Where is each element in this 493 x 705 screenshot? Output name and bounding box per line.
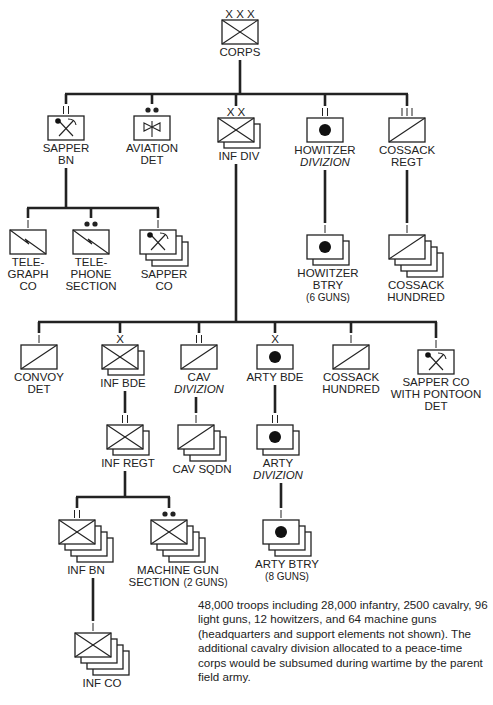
- unit-label: DIVIZION: [174, 383, 225, 395]
- artillery-icon: [275, 526, 287, 538]
- unit-inf-regt: INF REGT: [101, 415, 155, 469]
- unit-label: GRAPH: [8, 268, 49, 280]
- artillery-icon: [319, 241, 331, 253]
- unit-label: BTRY: [313, 279, 344, 291]
- echelon-x: X X: [227, 106, 246, 118]
- unit-label: DET: [141, 154, 164, 166]
- unit-label: INF BDE: [100, 377, 146, 389]
- unit-inf-div: X XINF DIV: [218, 106, 260, 162]
- echelon-dot: [84, 221, 89, 226]
- echelon-x: X: [271, 333, 279, 345]
- unit-arty-divizion: ARTYDIVIZION: [253, 415, 304, 481]
- artillery-icon: [269, 431, 281, 443]
- unit-label: CAV: [188, 371, 211, 383]
- unit-cossack-regt: COSSACKREGT: [379, 108, 436, 168]
- echelon-dot: [145, 107, 150, 112]
- echelon-dot: [170, 511, 175, 516]
- unit-label: SAPPER: [141, 268, 188, 280]
- unit-howitzer-divizion: HOWITZERDIVIZION: [294, 108, 355, 168]
- unit-machine-gun-section: MACHINE GUNSECTION(2 GUNS): [128, 511, 227, 588]
- unit-cossack-hundred-2: COSSACKHUNDRED: [322, 335, 380, 395]
- unit-label: (8 GUNS): [265, 571, 309, 582]
- unit-telephone-section: TELE-PHONESECTION: [65, 221, 116, 292]
- unit-label: COSSACK: [388, 279, 445, 291]
- unit-label: AVIATION: [126, 142, 178, 154]
- unit-label: INF REGT: [101, 457, 155, 469]
- unit-label: CO: [155, 280, 172, 292]
- unit-label: DET: [425, 400, 448, 412]
- unit-sapper-bn: SAPPERBN: [43, 106, 90, 166]
- unit-label: INF CO: [83, 677, 122, 689]
- unit-label: REGT: [391, 156, 423, 168]
- connector-corps: [65, 60, 408, 106]
- echelon-x: X: [116, 333, 124, 345]
- unit-cossack-hundred-1: COSSACKHUNDRED: [387, 225, 445, 303]
- unit-label: WITH PONTOON: [391, 388, 482, 400]
- unit-label: CORPS: [220, 46, 261, 58]
- summary-note: 48,000 troops including 28,000 infantry,…: [198, 598, 493, 684]
- connector-inf-regt: [76, 471, 170, 508]
- unit-label: TELE-: [12, 256, 45, 268]
- unit-label: CAV SQDN: [172, 463, 231, 475]
- unit-label: HUNDRED: [387, 291, 445, 303]
- unit-label: INF BN: [67, 564, 105, 576]
- connector-sapper-bn: [27, 168, 159, 218]
- unit-label: HUNDRED: [322, 383, 380, 395]
- echelon-x: X X X: [225, 8, 255, 20]
- unit-label: INF DIV: [219, 150, 260, 162]
- unit-label-suffix: (2 GUNS): [184, 577, 228, 588]
- unit-label: ARTY BDE: [246, 371, 303, 383]
- unit-label: SAPPER CO: [402, 376, 469, 388]
- unit-cav-divizion: CAVDIVIZION: [174, 335, 225, 395]
- unit-label: CO: [19, 280, 36, 292]
- unit-nodes: X X XCORPSSAPPERBNAVIATIONDETX XINF DIVH…: [8, 8, 482, 689]
- echelon-dot: [162, 511, 167, 516]
- unit-label: DET: [28, 383, 51, 395]
- unit-label: MACHINE GUN: [137, 564, 219, 576]
- unit-label: HOWITZER: [297, 267, 358, 279]
- unit-label: DIVIZION: [253, 469, 304, 481]
- unit-corps: X X XCORPS: [220, 8, 261, 58]
- unit-label: PHONE: [71, 268, 112, 280]
- unit-howitzer-btry: HOWITZERBTRY(6 GUNS): [297, 225, 358, 303]
- unit-label: (6 GUNS): [306, 292, 350, 303]
- unit-inf-co: INF CO: [75, 623, 129, 689]
- unit-inf-bde: XINF BDE: [100, 333, 146, 389]
- echelon-dot: [92, 221, 97, 226]
- unit-label: BN: [58, 154, 74, 166]
- unit-label: ARTY: [263, 457, 294, 469]
- unit-label: CONVOY: [14, 371, 64, 383]
- unit-label: SECTION(2 GUNS): [128, 576, 227, 588]
- unit-convoy-det: CONVOYDET: [14, 335, 64, 395]
- unit-sapper-co: SAPPERCO: [140, 220, 188, 292]
- unit-label: HOWITZER: [294, 144, 355, 156]
- unit-telegraph-co: TELE-GRAPHCO: [8, 220, 49, 292]
- unit-arty-btry: ARTY BTRY(8 GUNS): [255, 510, 319, 582]
- unit-cav-sqdn: CAV SQDN: [172, 415, 231, 475]
- artillery-icon: [319, 124, 331, 136]
- unit-arty-bde: XARTY BDE: [246, 333, 303, 383]
- unit-label: SAPPER: [43, 142, 90, 154]
- unit-aviation-det: AVIATIONDET: [126, 107, 178, 166]
- unit-label: COSSACK: [379, 144, 436, 156]
- echelon-dot: [153, 107, 158, 112]
- unit-label: ARTY BTRY: [255, 558, 319, 570]
- unit-label: COSSACK: [323, 371, 380, 383]
- unit-label: DIVIZION: [300, 156, 351, 168]
- unit-label: TELE-: [75, 256, 108, 268]
- unit-label: SECTION: [65, 280, 116, 292]
- unit-sapper-co-pontoon: SAPPER COWITH PONTOONDET: [391, 340, 482, 412]
- unit-inf-bn: INF BN: [59, 510, 113, 576]
- artillery-icon: [269, 351, 281, 363]
